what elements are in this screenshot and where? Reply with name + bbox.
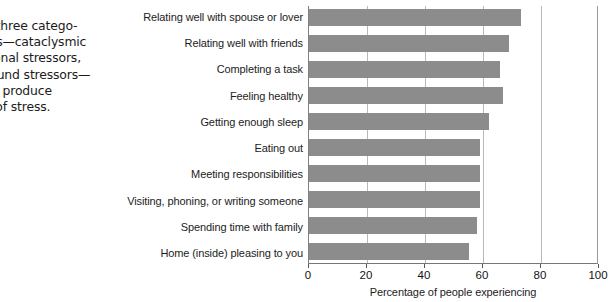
x-axis-tick [308, 264, 309, 268]
x-axis-tick-label: 80 [534, 269, 547, 281]
category-label: Getting enough sleep [120, 114, 303, 131]
bar[interactable] [309, 61, 500, 78]
bar-row[interactable] [309, 35, 597, 52]
bar-chart: Relating well with spouse or loverRelati… [0, 0, 611, 302]
bar[interactable] [309, 113, 489, 130]
bar[interactable] [309, 217, 477, 234]
bar-row[interactable] [309, 165, 597, 182]
plot-area [308, 6, 598, 264]
bar[interactable] [309, 9, 521, 26]
bar-row[interactable] [309, 243, 597, 260]
x-axis-tick-label: 40 [418, 269, 431, 281]
category-label: Home (inside) pleasing to you [120, 245, 303, 262]
x-axis-tick-label: 20 [360, 269, 373, 281]
bar[interactable] [309, 35, 509, 52]
x-axis-tick [598, 264, 599, 268]
bars-container [309, 6, 597, 262]
bar[interactable] [309, 165, 480, 182]
bar-row[interactable] [309, 191, 597, 208]
bar-row[interactable] [309, 61, 597, 78]
category-label: Spending time with family [120, 219, 303, 236]
x-axis-tick [482, 264, 483, 268]
x-axis-tick [366, 264, 367, 268]
bar[interactable] [309, 139, 480, 156]
category-label: Relating well with spouse or lover [120, 9, 303, 26]
category-label: Feeling healthy [120, 88, 303, 105]
bar[interactable] [309, 191, 480, 208]
bar[interactable] [309, 87, 503, 104]
category-label: Eating out [120, 140, 303, 157]
bar-row[interactable] [309, 139, 597, 156]
x-axis-title: Percentage of people experiencing [308, 286, 598, 298]
category-label: Meeting responsibilities [120, 166, 303, 183]
x-axis-tick-label: 60 [476, 269, 489, 281]
bar-row[interactable] [309, 217, 597, 234]
bar-row[interactable] [309, 9, 597, 26]
category-label: Visiting, phoning, or writing someone [120, 193, 303, 210]
bar-row[interactable] [309, 113, 597, 130]
x-axis-tick-label: 0 [305, 269, 311, 281]
category-axis-labels: Relating well with spouse or loverRelati… [120, 6, 303, 264]
category-label: Relating well with friends [120, 35, 303, 52]
x-axis-tick [424, 264, 425, 268]
x-axis-tick-label: 100 [588, 269, 607, 281]
bar[interactable] [309, 243, 469, 260]
x-axis: 020406080100 [308, 264, 598, 286]
x-axis-tick [540, 264, 541, 268]
category-label: Completing a task [120, 61, 303, 78]
bar-row[interactable] [309, 87, 597, 104]
